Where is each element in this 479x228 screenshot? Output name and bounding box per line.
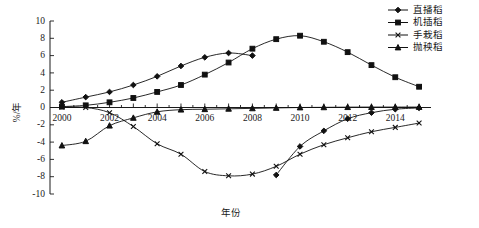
y-axis-tick-label: 10: [36, 16, 46, 26]
data-point-marker: [321, 128, 327, 134]
data-point-marker: [369, 104, 375, 109]
chart-legend: 直播稻机插稻手栽稻抛秧稻: [388, 4, 443, 53]
data-point-marker: [154, 74, 160, 80]
data-point-marker: [131, 82, 137, 88]
y-axis-tick-label: 6: [40, 50, 45, 60]
data-point-marker: [345, 104, 351, 109]
data-point-marker: [298, 33, 303, 38]
data-point-marker: [321, 39, 326, 44]
data-point-marker: [297, 105, 303, 110]
x-axis-tick-label: 2002: [100, 113, 119, 123]
data-point-marker: [395, 7, 401, 13]
data-point-marker: [395, 45, 401, 50]
legend-label-1: 直播稻: [413, 4, 443, 15]
data-point-marker: [107, 89, 113, 95]
data-point-marker: [250, 105, 256, 110]
data-point-marker: [393, 75, 398, 80]
data-point-marker: [155, 90, 160, 95]
data-point-marker: [369, 110, 375, 116]
y-axis-tick-label: -10: [32, 189, 45, 199]
data-point-marker: [274, 37, 279, 42]
data-point-marker: [131, 115, 137, 120]
series-2: [60, 33, 422, 109]
data-point-marker: [250, 53, 256, 59]
y-axis-tick-label: 4: [40, 68, 45, 78]
data-point-marker: [202, 55, 208, 61]
x-axis-tick-label: 2008: [243, 113, 262, 123]
y-axis-title: %/年: [11, 102, 22, 123]
legend-label-2: 机插稻: [413, 16, 443, 27]
data-point-marker: [369, 63, 374, 68]
data-point-marker: [226, 50, 232, 56]
data-point-marker: [131, 96, 136, 101]
data-point-marker: [345, 50, 350, 55]
y-axis-tick-label: 2: [40, 85, 45, 95]
x-axis-tick-label: 2014: [386, 113, 405, 123]
data-point-marker: [179, 83, 184, 88]
chart-container: -10-8-6-4-202468102000200220042006200820…: [0, 0, 479, 228]
data-point-marker: [59, 143, 65, 148]
x-axis-tick-label: 2006: [195, 113, 214, 123]
data-point-marker: [202, 72, 207, 77]
data-point-marker: [107, 123, 113, 128]
data-point-marker: [154, 109, 160, 114]
data-point-marker: [83, 138, 89, 143]
y-axis-tick-label: -2: [37, 119, 45, 129]
series-line: [62, 36, 419, 107]
data-point-marker: [178, 63, 184, 69]
x-axis-title: 年份: [221, 207, 241, 218]
data-point-marker: [226, 106, 232, 111]
data-point-marker: [273, 105, 279, 110]
data-point-marker: [226, 60, 231, 65]
data-point-marker: [392, 104, 398, 109]
data-point-marker: [83, 94, 89, 100]
y-axis-tick-label: 8: [40, 33, 45, 43]
x-axis-tick-label: 2000: [52, 113, 71, 123]
y-axis-tick-label: -8: [37, 171, 45, 181]
data-point-marker: [396, 20, 401, 25]
legend-label-3: 手栽稻: [413, 29, 443, 40]
y-axis-tick-label: -6: [37, 154, 45, 164]
data-point-marker: [416, 104, 422, 109]
y-axis-tick-label: 0: [40, 102, 45, 112]
data-point-marker: [321, 104, 327, 109]
y-axis-tick-label: -4: [37, 137, 45, 147]
rice-planting-growth-rate-line-chart: -10-8-6-4-202468102000200220042006200820…: [0, 0, 479, 228]
legend-label-4: 抛秧稻: [413, 41, 443, 52]
series-4: [59, 104, 422, 148]
data-point-marker: [107, 100, 112, 105]
data-point-marker: [250, 46, 255, 51]
data-point-marker: [417, 84, 422, 89]
x-axis-tick-label: 2010: [291, 113, 310, 123]
